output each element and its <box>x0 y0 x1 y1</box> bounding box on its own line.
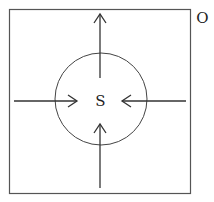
center-label: S <box>95 92 105 110</box>
bottom-arrow <box>94 124 106 188</box>
left-arrow <box>14 95 77 107</box>
outer-label: O <box>196 9 208 27</box>
right-arrow <box>122 95 186 107</box>
diagram-canvas: S O <box>0 0 214 202</box>
top-arrow <box>94 14 106 78</box>
